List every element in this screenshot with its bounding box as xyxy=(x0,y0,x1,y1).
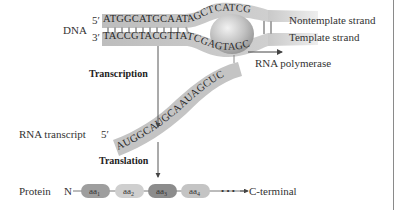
ellipsis: • • • xyxy=(221,186,235,196)
amino-acid-3: aa3 xyxy=(148,184,177,198)
rna-five-prime: 5′ xyxy=(101,128,109,140)
right-border-rule xyxy=(393,0,394,210)
amino-acid-4: aa4 xyxy=(181,184,210,198)
three-prime-bottom: 3′ xyxy=(92,31,100,43)
amino-acid-1: aa1 xyxy=(81,184,110,198)
template-strand-label: Template strand xyxy=(289,31,360,43)
n-terminal-label: N xyxy=(64,185,72,197)
rna-polymerase-label: RNA polymerase xyxy=(255,57,331,69)
transcription-translation-diagram: DNA 5′ 3′ ATGGCATGCAATAGCTCATCG TACCGTAC… xyxy=(0,0,401,210)
transcription-label: Transcription xyxy=(89,68,148,79)
c-terminal-label: C-terminal xyxy=(249,185,297,197)
translation-label: Translation xyxy=(99,155,149,166)
rna-transcript-label: RNA transcript xyxy=(19,128,86,140)
five-prime-top: 5′ xyxy=(92,14,100,26)
polypeptide-chain: aa1 aa2 aa3 aa4 • • • xyxy=(73,184,248,198)
rna-sequence: AUGGCAUGCAAUAGCUC xyxy=(114,68,225,152)
amino-acid-2: aa2 xyxy=(115,184,144,198)
dna-label: DNA xyxy=(63,24,87,36)
protein-label: Protein xyxy=(19,185,51,197)
nontemplate-strand-label: Nontemplate strand xyxy=(289,14,376,26)
